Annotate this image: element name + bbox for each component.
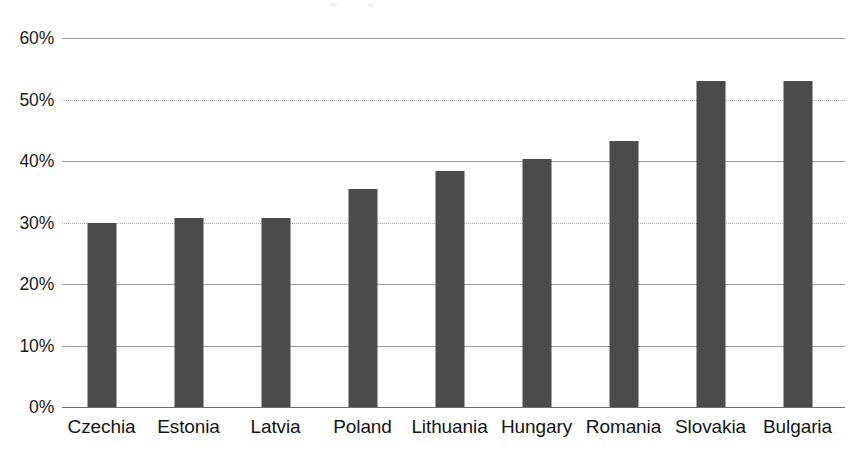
x-tick-label: Romania (586, 416, 661, 438)
bars-layer (62, 38, 845, 407)
bar (87, 223, 116, 407)
gridline-0 (62, 407, 845, 408)
bar (696, 81, 725, 407)
x-tick-label: Hungary (501, 416, 572, 438)
x-tick-label: Poland (333, 416, 392, 438)
y-tick-label: 40% (0, 151, 54, 172)
bar (783, 81, 812, 407)
bar (261, 218, 290, 407)
x-tick-label: Slovakia (675, 416, 746, 438)
bar (174, 218, 203, 407)
scan-artifact (330, 2, 338, 7)
bar (348, 189, 377, 407)
y-tick-label: 30% (0, 212, 54, 233)
scan-artifact (368, 3, 374, 7)
y-tick-label: 10% (0, 335, 54, 356)
y-tick-label: 60% (0, 28, 54, 49)
bar (435, 171, 464, 407)
y-tick-label: 20% (0, 274, 54, 295)
x-tick-label: Estonia (157, 416, 220, 438)
x-tick-label: Lithuania (411, 416, 487, 438)
x-tick-label: Czechia (68, 416, 136, 438)
x-tick-label: Latvia (250, 416, 300, 438)
bar-chart: 0%10%20%30%40%50%60% CzechiaEstoniaLatvi… (0, 0, 858, 455)
bar (522, 159, 551, 407)
y-tick-label: 50% (0, 89, 54, 110)
y-axis: 0%10%20%30%40%50%60% (0, 38, 54, 407)
y-tick-label: 0% (0, 397, 54, 418)
x-tick-label: Bulgaria (763, 416, 832, 438)
bar (609, 141, 638, 407)
x-axis: CzechiaEstoniaLatviaPolandLithuaniaHunga… (62, 416, 845, 452)
